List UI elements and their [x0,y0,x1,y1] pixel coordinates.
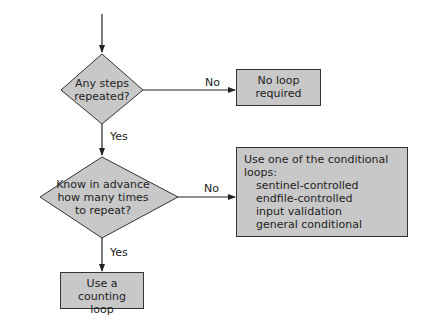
decision1-text: Any steps repeated? [62,77,142,103]
decision2-line2: how many times [52,191,154,204]
conditional-item: endfile-controlled [256,192,407,205]
conditional-item: input validation [256,205,407,218]
decision2-line3: to repeat? [52,204,154,217]
decision2-no-label: No [204,182,219,195]
decision2-yes-label: Yes [110,246,128,259]
counting-line2: loop [61,303,143,316]
decision1-yes-label: Yes [110,130,128,143]
decision1-no-label: No [205,76,220,89]
no-loop-line1: No loop [237,74,320,87]
decision2-text: Know in advance how many times to repeat… [52,178,154,217]
decision1-line2: repeated? [62,90,142,103]
decision1-line1: Any steps [62,77,142,90]
counting-line1: Use a counting [61,277,143,303]
conditional-item: general conditional [256,218,407,231]
conditional-loops-box: Use one of the conditional loops: sentin… [236,147,408,237]
no-loop-box: No loop required [236,69,321,106]
decision2-line1: Know in advance [52,178,154,191]
no-loop-line2: required [237,87,320,100]
conditional-heading: Use one of the conditional loops: [244,153,407,179]
conditional-item: sentinel-controlled [256,179,407,192]
counting-loop-box: Use a counting loop [60,272,144,309]
